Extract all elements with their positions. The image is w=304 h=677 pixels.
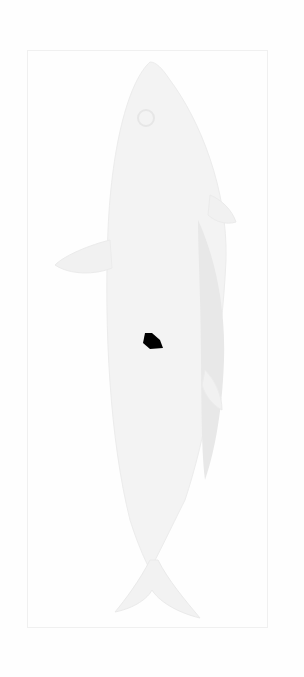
fish-illustration — [0, 0, 304, 677]
fish-tail — [115, 560, 200, 618]
fish-pectoral-fin — [55, 240, 112, 273]
illustration-plate — [0, 0, 304, 677]
